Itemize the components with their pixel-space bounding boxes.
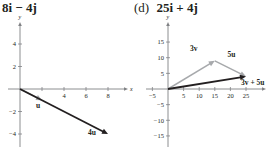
y-tick-label: −2: [9, 108, 16, 115]
y-axis-label: y: [18, 14, 22, 20]
y-tick-label: 5: [161, 70, 164, 77]
vector-label: 5u: [227, 50, 235, 59]
arrowhead-icon: [18, 22, 22, 26]
y-tick-label: −5: [157, 101, 164, 108]
x-tick-label: 10: [196, 92, 203, 99]
y-tick-label: −15: [154, 132, 164, 139]
x-tick-label: 6: [84, 92, 88, 99]
y-tick-label: 15: [158, 38, 165, 45]
y-axis-label: y: [166, 14, 170, 20]
x-tick-label: −5: [149, 92, 156, 99]
arrowhead-icon: [166, 22, 170, 26]
x-tick-label: 4: [62, 92, 66, 99]
x-axis-label: x: [129, 86, 133, 92]
y-tick-label: 4: [13, 40, 17, 47]
x-tick-label: 15: [212, 92, 219, 99]
arrowhead-icon: [124, 87, 128, 91]
vector-label: 3v + 5u: [241, 78, 264, 87]
vector-label: 4u: [88, 128, 96, 137]
vector-label: 3v: [190, 44, 198, 53]
vector-charts: xy46842−2−4u4uxy−551015202515105−5−10−15…: [0, 0, 266, 149]
arrowhead-icon: [262, 87, 266, 91]
y-tick-label: 10: [158, 54, 165, 61]
x-tick-label: 8: [106, 92, 109, 99]
y-tick-label: 2: [13, 63, 16, 70]
x-tick-label: 5: [182, 92, 185, 99]
vector-5u: [215, 61, 243, 75]
y-tick-label: −4: [9, 130, 17, 137]
x-tick-label: 25: [243, 92, 250, 99]
y-tick-label: −10: [154, 117, 164, 124]
vector-label: u: [36, 101, 40, 110]
x-tick-label: 20: [227, 92, 234, 99]
